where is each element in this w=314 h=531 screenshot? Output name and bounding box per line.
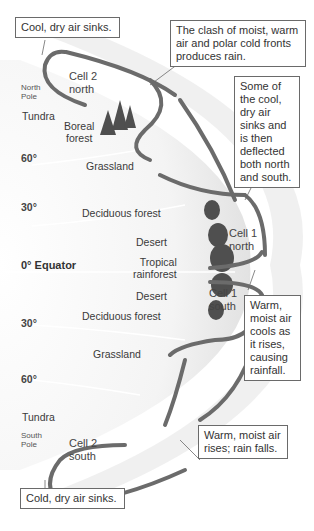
callout-warm-moist-rises: Warm, moist air rises; rain falls. (198, 425, 288, 459)
callout-cold-dry-sinks: Cold, dry air sinks. (20, 488, 125, 509)
label-grassland-north: Grassland (86, 160, 134, 172)
callout-warm-moist-cools: Warm, moist air cools as it rises, causi… (244, 295, 301, 381)
label-lat-60n: 60° (21, 152, 37, 164)
label-lat-30s: 30° (21, 317, 37, 329)
label-lat-30n: 30° (21, 201, 37, 213)
label-cell1-north: Cell 1north (229, 227, 257, 253)
callout-cool-dry-sinks: Cool, dry air sinks. (15, 17, 120, 38)
label-tropical-rainforest: Tropicalrainforest (133, 256, 177, 280)
label-desert-north: Desert (136, 236, 167, 248)
label-lat-60s: 60° (21, 373, 37, 385)
label-equator: 0° Equator (21, 259, 76, 271)
label-cell2-north: Cell 2north (69, 70, 97, 96)
label-tundra-north: Tundra (22, 110, 55, 122)
label-deciduous-north: Deciduous forest (82, 207, 161, 219)
label-cell1-south: Cell 1south (209, 287, 237, 313)
label-south-pole: SouthPole (21, 431, 42, 449)
label-north-pole: NorthPole (21, 83, 41, 101)
callout-clash: The clash of moist, warm air and polar c… (170, 20, 306, 67)
label-grassland-south: Grassland (93, 348, 141, 360)
label-deciduous-south: Deciduous forest (82, 310, 161, 322)
label-tundra-south: Tundra (22, 411, 55, 423)
label-boreal-forest: Borealforest (64, 120, 94, 144)
label-desert-south: Desert (136, 290, 167, 302)
label-cell2-south: Cell 2south (69, 437, 97, 463)
callout-deflected: Some of the cool, dry air sinks and is t… (234, 76, 300, 188)
